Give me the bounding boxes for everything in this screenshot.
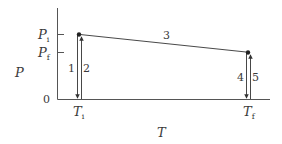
y-axis-label: P [14, 65, 24, 80]
initial-point [77, 32, 81, 36]
ti-label: Ti [73, 104, 85, 121]
pt-diagram: P T 0 Pi Pf Ti Tf 3 1 2 4 5 [0, 0, 282, 144]
final-point [246, 50, 250, 54]
path-2-label: 2 [83, 62, 90, 75]
pi-label: Pi [37, 27, 50, 44]
axes [58, 8, 271, 100]
origin-label: 0 [43, 93, 50, 106]
tf-label: Tf [243, 104, 256, 121]
path-1-label: 1 [68, 62, 75, 75]
path-4-label: 4 [237, 71, 244, 84]
path-3-label: 3 [163, 29, 170, 42]
path-5-label: 5 [252, 71, 259, 84]
pf-label: Pf [37, 45, 51, 62]
x-axis-label: T [157, 125, 167, 140]
